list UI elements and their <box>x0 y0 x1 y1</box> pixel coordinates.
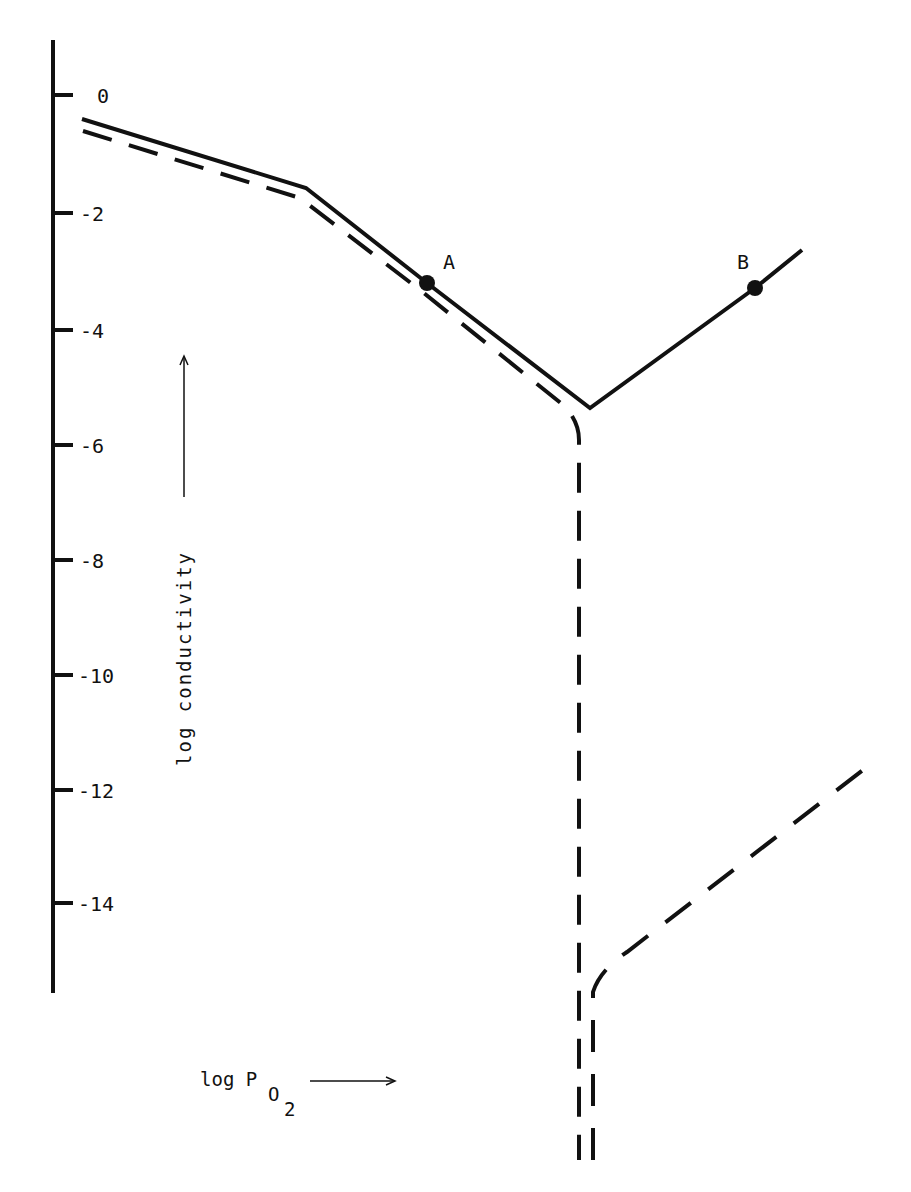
point-a-marker <box>419 275 435 291</box>
point-a-label: A <box>443 250 455 274</box>
series-dashed-lower <box>593 770 863 1160</box>
point-b-marker <box>747 280 763 296</box>
y-tick-label: -4 <box>80 319 104 343</box>
x-axis-label-sub: O <box>268 1083 279 1105</box>
y-axis-arrow-icon <box>180 356 188 497</box>
y-ticks <box>53 95 73 903</box>
y-tick-label: -12 <box>78 779 114 803</box>
x-axis-label: log P <box>200 1068 257 1090</box>
point-b-label: B <box>737 250 749 274</box>
y-axis-label: log conductivity <box>173 551 195 766</box>
y-tick-label: -14 <box>78 892 114 916</box>
y-tick-label: -6 <box>80 434 104 458</box>
y-tick-label: -10 <box>78 664 114 688</box>
x-axis-label-subsub: 2 <box>284 1098 295 1120</box>
x-axis-arrow-icon <box>310 1077 395 1085</box>
y-tick-label: -8 <box>80 549 104 573</box>
chart: 0 -2 -4 -6 -8 -10 -12 -14 log conductivi… <box>0 0 911 1192</box>
y-tick-label: 0 <box>97 84 109 108</box>
series-dashed <box>83 131 579 1160</box>
y-tick-label: -2 <box>80 202 104 226</box>
